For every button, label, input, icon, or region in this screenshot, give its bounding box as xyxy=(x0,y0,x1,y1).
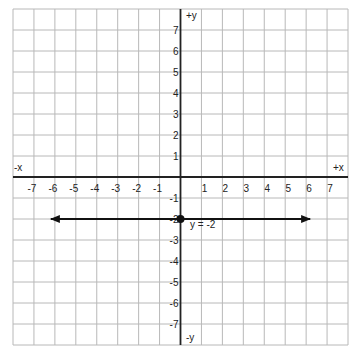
y-tick-label: 1 xyxy=(173,151,179,162)
y-tick-label: 7 xyxy=(173,25,179,36)
y-tick-label: -5 xyxy=(170,277,179,288)
x-tick-label: 5 xyxy=(285,183,291,194)
x-tick-label: 4 xyxy=(264,183,270,194)
x-tick-label: -2 xyxy=(132,183,141,194)
x-axis-negative-label: -x xyxy=(14,162,22,173)
y-tick-label: -6 xyxy=(170,298,179,309)
axes xyxy=(13,9,348,345)
y-tick-label: -7 xyxy=(170,319,179,330)
y-tick-label: -4 xyxy=(170,256,179,267)
x-tick-label: 7 xyxy=(327,183,333,194)
x-tick-label: -5 xyxy=(69,183,78,194)
y-tick-label: -3 xyxy=(170,235,179,246)
x-tick-label: 1 xyxy=(202,183,208,194)
x-tick-label: 6 xyxy=(306,183,312,194)
x-tick-label: -6 xyxy=(48,183,57,194)
x-tick-label: -7 xyxy=(27,183,36,194)
y-tick-label: 4 xyxy=(173,88,179,99)
y-axis-positive-label: +y xyxy=(186,10,197,21)
y-axis-negative-label: -y xyxy=(186,332,194,343)
y-intercept-point xyxy=(177,215,185,223)
x-tick-label: 2 xyxy=(223,183,229,194)
equation-label: y = -2 xyxy=(190,219,216,230)
y-tick-label: 2 xyxy=(173,130,179,141)
y-tick-label: -1 xyxy=(170,193,179,204)
y-tick-label: 3 xyxy=(173,109,179,120)
x-tick-label: -4 xyxy=(90,183,99,194)
y-tick-label: 6 xyxy=(173,46,179,57)
x-tick-label: -1 xyxy=(153,183,162,194)
plotted-line xyxy=(51,215,310,223)
x-tick-label: 3 xyxy=(244,183,250,194)
y-tick-label: 5 xyxy=(173,67,179,78)
coordinate-plane: -7-6-5-4-3-2-112345677654321-1-2-3-4-5-6… xyxy=(0,0,355,347)
x-tick-label: -3 xyxy=(111,183,120,194)
x-axis-positive-label: +x xyxy=(333,162,344,173)
